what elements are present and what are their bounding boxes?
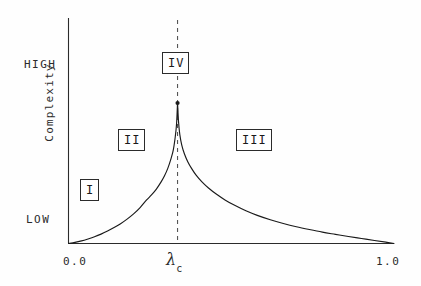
- y-axis-title: Complexity: [43, 48, 56, 158]
- region-label-two: II: [118, 129, 145, 151]
- x-axis-tick-min: 0.0: [63, 255, 87, 268]
- lambda-subscript: c: [176, 263, 182, 274]
- plot-canvas: [0, 0, 421, 286]
- x-axis-tick-critical: λc: [166, 250, 182, 271]
- lambda-glyph: λ: [166, 250, 176, 269]
- region-label-one: I: [80, 179, 99, 201]
- region-label-four: IV: [162, 52, 189, 74]
- region-label-three: III: [236, 129, 272, 151]
- x-axis-tick-max: 1.0: [376, 255, 400, 268]
- peak-marker-dot: [175, 101, 179, 105]
- y-axis-tick-low: LOW: [26, 213, 50, 226]
- complexity-phase-diagram: HIGH LOW 0.0 1.0 λc Complexity I II III …: [0, 0, 421, 286]
- complexity-curve: [69, 103, 395, 244]
